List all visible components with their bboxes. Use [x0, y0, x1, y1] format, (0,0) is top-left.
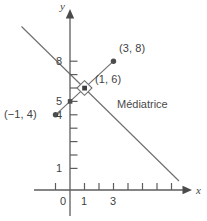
x-tick-label-1: 1: [81, 196, 87, 207]
y-tick-label-1: 1: [56, 163, 62, 174]
y-axis-arrowhead: [66, 9, 74, 19]
x-tick-label-3: 3: [110, 196, 116, 207]
point-b-dot: [111, 59, 116, 64]
y-axis-label: y: [60, 1, 65, 12]
midpoint-label: (1, 6): [95, 74, 121, 85]
mediatrice-label: Médiatrice: [117, 99, 168, 110]
midpoint-dot: [82, 86, 87, 91]
y-tick-label-8: 8: [56, 56, 62, 67]
point-a-label: (−1, 4): [4, 109, 37, 120]
x-axis-label: x: [196, 185, 201, 196]
y-tick-label-4: 4: [56, 110, 62, 121]
point-b-label: (3, 8): [119, 43, 145, 54]
x-axis-arrowhead: [183, 186, 193, 194]
x-tick-label-0: 0: [60, 196, 66, 207]
y-tick-label-5: 5: [56, 96, 62, 107]
x-axis-ticks: [56, 183, 172, 190]
y-intercept-dot: [68, 99, 73, 104]
